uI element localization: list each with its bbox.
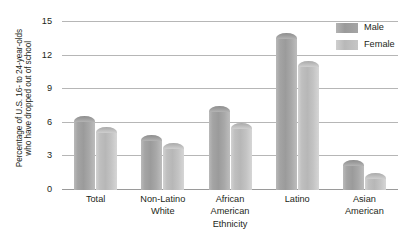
x-axis-tick-label: Non-LatinoWhite [129,194,196,217]
bar-male [209,106,230,190]
legend-swatch-male-icon [336,23,358,33]
x-axis-tick-label-line: American [196,206,263,218]
bar-body [163,148,184,190]
x-axis-tick-label-line: White [129,206,196,218]
bar-female [96,127,117,190]
bar-female [231,123,252,190]
bar-body [74,121,95,190]
bar-group [141,22,184,190]
bar-body [276,38,297,190]
bar-cap [365,173,386,179]
x-axis-tick-label-line: African [196,194,263,206]
x-axis-tick-label-line: American [331,206,398,218]
bar-group [209,22,252,190]
x-axis-tick-label: AsianAmerican [331,194,398,217]
bar-cap [298,61,319,67]
x-axis-title: Ethnicity [62,219,398,229]
bar-male [74,116,95,190]
legend: Male Female [336,22,418,56]
bar-female [298,61,319,190]
x-axis-tick-label-line: Asian [331,194,398,206]
bar-body [209,111,230,190]
bar-cap [343,160,364,166]
x-axis-tick-label-line: Latino [264,194,331,206]
x-axis-tick-label: Latino [264,194,331,206]
legend-label-female: Female [364,40,395,49]
bar-group [74,22,117,190]
bar-cap [163,143,184,149]
bar-female [163,143,184,190]
x-axis-tick-label-line: Total [62,194,129,206]
bar-cap [74,116,95,122]
bar-body [96,132,117,190]
bar-body [298,66,319,190]
bar-male [343,160,364,190]
bar-body [343,165,364,190]
bar-cap [231,123,252,129]
bar-cap [209,106,230,112]
bar-cap [276,33,297,39]
x-axis-tick-label: Total [62,194,129,206]
x-axis-tick-label: AfricanAmerican [196,194,263,217]
bar-body [231,128,252,190]
y-axis-tick-labels: 03691215 [0,22,58,190]
bar-chart: Percentage of U.S. 16- to 24-year-olds w… [0,0,418,246]
bar-cap [141,135,162,141]
bar-cap [96,127,117,133]
bar-male [141,135,162,190]
x-axis-tick-label-line: Non-Latino [129,194,196,206]
bar-body [141,140,162,190]
legend-label-male: Male [364,23,384,32]
bar-group [276,22,319,190]
legend-swatch-female-icon [336,40,358,50]
legend-item-female: Female [336,39,418,50]
bar-body [365,178,386,190]
legend-item-male: Male [336,22,418,33]
bar-female [365,173,386,190]
bar-male [276,33,297,190]
